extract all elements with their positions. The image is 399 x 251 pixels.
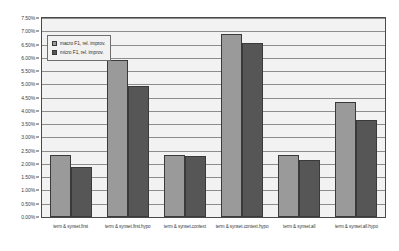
x-axis-label: term & synset.all.hypo: [335, 224, 378, 229]
bar-group: [271, 18, 328, 217]
y-tick-label: 6.00%: [21, 55, 35, 61]
legend-swatch-icon-micro: [52, 50, 57, 55]
bar-micro: [185, 156, 206, 217]
legend-item-macro: macro F1, rel. improv.: [52, 39, 105, 48]
x-axis-labels: term & synset.firstterm & synset.first.h…: [42, 224, 385, 244]
x-axis-label: term & synset.first: [53, 224, 88, 229]
bar-macro: [221, 34, 242, 217]
y-tick-label: 0.50%: [21, 201, 35, 207]
y-tick-mark: [36, 110, 39, 111]
bar-group: [156, 18, 213, 217]
bar-chart: 7.50%7.00%6.50%6.00%5.50%5.00%4.50%4.00%…: [0, 0, 399, 251]
legend-label-micro: micro F1, rel. improv.: [60, 50, 104, 55]
legend-swatch-icon-macro: [52, 41, 57, 46]
y-tick-label: 1.00%: [21, 187, 35, 193]
bar-group: [214, 18, 271, 217]
chart-legend: macro F1, rel. improv. micro F1, rel. im…: [47, 35, 111, 61]
bar-macro: [335, 102, 356, 217]
y-tick-label: 2.50%: [21, 148, 35, 154]
y-tick-mark: [36, 177, 39, 178]
y-tick-mark: [36, 71, 39, 72]
y-tick-label: 1.50%: [21, 174, 35, 180]
bar-micro: [71, 167, 92, 217]
y-tick-mark: [36, 18, 39, 19]
bar-macro: [164, 155, 185, 217]
y-tick-label: 5.00%: [21, 81, 35, 87]
legend-item-micro: micro F1, rel. improv.: [52, 48, 105, 57]
y-tick-label: 7.50%: [21, 15, 35, 21]
x-axis-label: term & synset.context: [164, 224, 206, 229]
y-tick-mark: [36, 203, 39, 204]
bar-macro: [50, 155, 71, 217]
y-tick-mark: [36, 84, 39, 85]
y-tick-label: 3.00%: [21, 134, 35, 140]
bar-macro: [278, 155, 299, 217]
y-tick-mark: [36, 163, 39, 164]
y-tick-mark: [36, 44, 39, 45]
bar-macro: [107, 60, 128, 217]
y-tick-label: 4.50%: [21, 95, 35, 101]
y-tick-label: 7.00%: [21, 28, 35, 34]
y-tick-mark: [36, 124, 39, 125]
bar-micro: [299, 160, 320, 217]
y-tick-mark: [36, 97, 39, 98]
bar-group: [328, 18, 385, 217]
y-tick-label: 2.00%: [21, 161, 35, 167]
y-tick-mark: [36, 57, 39, 58]
bar-micro: [242, 43, 263, 217]
y-tick-label: 0.00%: [21, 214, 35, 220]
bar-micro: [356, 120, 377, 217]
y-tick-label: 4.00%: [21, 108, 35, 114]
legend-label-macro: macro F1, rel. improv.: [60, 41, 105, 46]
y-tick-mark: [36, 217, 39, 218]
y-tick-label: 3.50%: [21, 121, 35, 127]
y-tick-label: 6.50%: [21, 42, 35, 48]
y-tick-mark: [36, 150, 39, 151]
x-axis-label: term & synset.all: [283, 224, 315, 229]
bar-micro: [128, 86, 149, 217]
y-tick-label: 5.50%: [21, 68, 35, 74]
y-tick-mark: [36, 137, 39, 138]
y-axis: 7.50%7.00%6.50%6.00%5.50%5.00%4.50%4.00%…: [0, 17, 39, 218]
y-tick-mark: [36, 31, 39, 32]
x-axis-label: term & synset.context.hypo: [216, 224, 269, 229]
x-axis-label: term & synset.first.hypo: [105, 224, 151, 229]
y-tick-mark: [36, 190, 39, 191]
